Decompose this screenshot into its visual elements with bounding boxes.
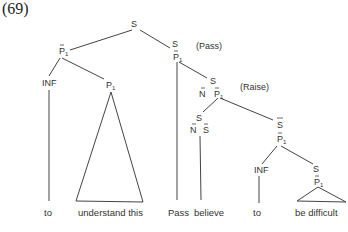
leaf-be-difficult: be difficult — [295, 207, 338, 218]
svg-text:S: S — [203, 125, 209, 135]
svg-text:1: 1 — [283, 139, 287, 145]
node-root-s: S — [131, 19, 137, 29]
node-inner-s: S — [313, 164, 319, 174]
tree-leaves: to understand this Pass believe to be di… — [44, 207, 338, 218]
tree-nodes: S P 1 INF P 1 S P 1 (Pass) S N P 1 — [42, 19, 324, 188]
svg-text:1: 1 — [65, 51, 69, 57]
node-sbar-p-hat: P 1 — [277, 133, 287, 145]
svg-text:1: 1 — [112, 85, 116, 91]
node-inner-inf: INF — [254, 165, 269, 175]
leaf-to-1: to — [44, 207, 52, 218]
node-left-inf: INF — [42, 78, 57, 88]
svg-text:1: 1 — [320, 182, 324, 188]
node-mid-s: S — [210, 76, 216, 86]
svg-text:N: N — [199, 89, 206, 99]
leaf-pass: Pass — [168, 207, 189, 218]
syntax-tree: S P 1 INF P 1 S P 1 (Pass) S N P 1 — [0, 0, 348, 232]
node-low-s: S — [196, 113, 202, 123]
svg-text:1: 1 — [179, 57, 183, 63]
svg-text:N: N — [190, 125, 197, 135]
leaf-to-2: to — [253, 207, 261, 218]
annotation-pass: (Pass) — [196, 41, 222, 51]
leaf-believe: believe — [194, 207, 224, 218]
annotation-raise: (Raise) — [240, 82, 269, 92]
leaf-understand-this: understand this — [78, 207, 143, 218]
node-low-s-hat: S — [203, 124, 209, 135]
node-inner-p-hat: P 1 — [314, 176, 324, 188]
node-right-p-hat: P 1 — [173, 51, 183, 63]
node-mid-p-hat: P 1 — [214, 88, 224, 100]
node-right-s: S — [172, 39, 178, 49]
node-low-n-hat: N — [190, 124, 197, 135]
node-s-bar: S — [277, 118, 283, 130]
node-left-p1: P 1 — [106, 80, 116, 91]
svg-text:S: S — [277, 120, 283, 130]
node-left-p-hat: P 1 — [59, 45, 69, 57]
node-mid-n-hat: N — [199, 88, 206, 99]
